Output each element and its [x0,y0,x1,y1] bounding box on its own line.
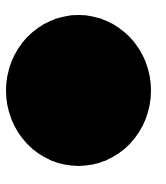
black-circle-icon [6,15,151,166]
